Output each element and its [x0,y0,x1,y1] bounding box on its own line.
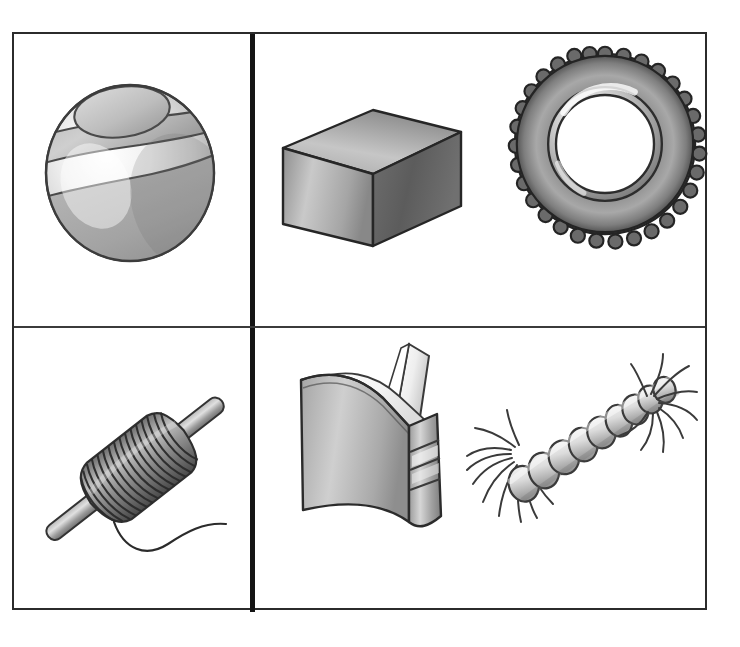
rope-illustration [465,352,697,542]
cell-bottom-left [14,328,250,612]
cube-illustration [277,102,467,252]
illustration-stage [0,0,740,647]
illustration-panel [12,32,707,610]
book-illustration [291,340,461,550]
ball-illustration [44,82,216,264]
rope-twist-segments [495,369,692,512]
spool-illustration [28,372,244,568]
tire-illustration [507,46,703,242]
cell-top-right [255,34,705,326]
cell-bottom-right [255,328,705,612]
cell-top-left [14,34,250,326]
